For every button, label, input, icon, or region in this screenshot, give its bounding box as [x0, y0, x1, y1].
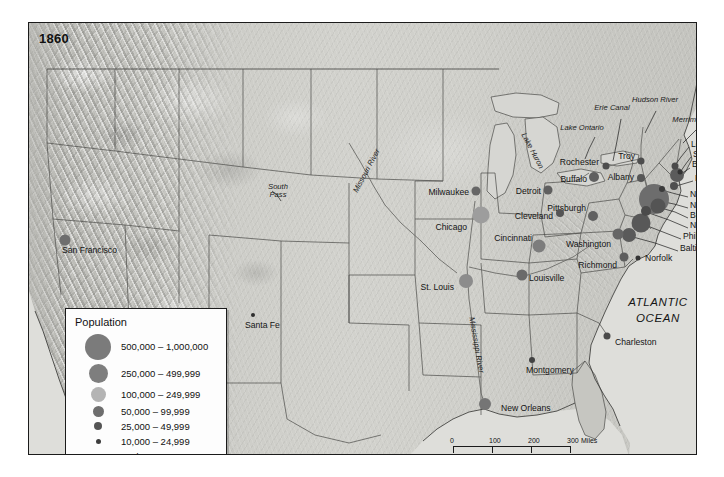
- city-label-boston: Boston: [692, 160, 697, 169]
- city-dot-san-francisco[interactable]: [60, 235, 71, 246]
- city-label-santa-fe: Santa Fe: [245, 321, 280, 330]
- city-label-richmond: Richmond: [578, 261, 617, 270]
- city-label-st-louis: St. Louis: [421, 283, 454, 292]
- legend-row: 500,000 – 1,000,000: [75, 332, 218, 361]
- city-label-louisville: Louisville: [529, 274, 564, 283]
- map-canvas[interactable]: 1860 San FranciscoSanta FeMilwaukeeChica…: [28, 22, 697, 455]
- scale-miles-numbers: 0100200300Miles: [453, 437, 605, 446]
- city-label-milwaukee: Milwaukee: [428, 188, 469, 197]
- city-label-chicago: Chicago: [435, 223, 467, 232]
- city-label-albany: Albany: [608, 173, 634, 182]
- city-dot-montgomery[interactable]: [529, 357, 535, 363]
- city-dot-detroit[interactable]: [544, 186, 553, 195]
- legend-row: Under 10,000: [75, 449, 218, 455]
- city-dot-new-orleans[interactable]: [479, 398, 491, 410]
- city-dot-rochester[interactable]: [603, 163, 610, 170]
- city-dot-brooklyn[interactable]: [651, 199, 666, 214]
- lake-superior: [491, 93, 559, 118]
- city-dot-albany[interactable]: [637, 174, 645, 182]
- legend-row: 100,000 – 249,999: [75, 385, 218, 403]
- city-label-pittsburgh: Pittsburgh: [547, 204, 586, 213]
- city-dot-charleston[interactable]: [604, 333, 611, 340]
- feature-label-lake-ontario: Lake Ontario: [560, 124, 603, 132]
- legend-class-label: 50,000 – 99,999: [121, 406, 190, 417]
- city-label-cleveland: Cleveland: [515, 212, 553, 221]
- legend-circle-swatch: [75, 362, 121, 384]
- city-label-san-francisco: San Francisco: [62, 246, 117, 255]
- city-dot-washington[interactable]: [613, 229, 624, 240]
- scale-bar: 0100200300Miles 0100200300Kilometers: [453, 437, 605, 455]
- feature-label-hudson-river: Hudson River: [632, 96, 678, 104]
- lake-michigan: [487, 123, 516, 199]
- legend-circle-swatch: [75, 434, 121, 448]
- feature-label-merrimack-river: Merrimack River: [672, 116, 697, 124]
- city-label-buffalo: Buffalo: [560, 175, 587, 184]
- city-dot-richmond[interactable]: [620, 253, 629, 262]
- feature-label-south-pass: SouthPass: [268, 183, 288, 200]
- scale-miles-tick: 0: [450, 437, 454, 444]
- city-label-new-york: New York: [690, 201, 697, 210]
- legend-circle-swatch: [75, 332, 121, 361]
- city-label-charleston: Charleston: [615, 338, 657, 347]
- city-dot-milwaukee[interactable]: [472, 187, 481, 196]
- legend-class-label: Under 10,000: [121, 451, 179, 456]
- city-label-newark: Newark: [690, 221, 697, 230]
- city-label-baltimore: Baltimore: [680, 244, 697, 253]
- city-dot-louisville[interactable]: [517, 270, 528, 281]
- city-label-troy: Troy: [618, 152, 635, 161]
- city-label-new-orleans: New Orleans: [501, 404, 551, 413]
- legend-class-label: 500,000 – 1,000,000: [121, 341, 208, 352]
- city-dot-norfolk[interactable]: [636, 256, 641, 261]
- city-label-providence: Providence: [695, 174, 697, 183]
- city-dot-pittsburgh[interactable]: [588, 211, 598, 221]
- mississippi-river-line: [467, 201, 485, 405]
- population-legend[interactable]: Population 500,000 – 1,000,000250,000 – …: [65, 308, 227, 455]
- legend-class-label: 100,000 – 249,999: [121, 389, 200, 400]
- scale-miles-tick: 100: [489, 437, 501, 444]
- city-dot-santa-fe[interactable]: [251, 313, 255, 317]
- city-dot-st-louis[interactable]: [459, 274, 473, 288]
- legend-title: Population: [75, 316, 218, 328]
- city-dot-cincinnati[interactable]: [533, 240, 546, 253]
- city-label-new-haven: New Haven: [690, 190, 697, 199]
- city-label-cincinnati: Cincinnati: [494, 234, 532, 243]
- scale-miles-tick: 200: [528, 437, 540, 444]
- city-label-philadelphia: Philadelphia: [683, 232, 697, 241]
- feature-label-erie-canal: Erie Canal: [594, 104, 629, 112]
- legend-row: 25,000 – 49,999: [75, 419, 218, 433]
- city-label-washington: Washington: [566, 240, 611, 249]
- city-dot-baltimore[interactable]: [622, 228, 636, 242]
- city-label-detroit: Detroit: [516, 187, 541, 196]
- city-dot-salem[interactable]: [678, 170, 683, 175]
- city-label-norfolk: Norfolk: [645, 254, 672, 263]
- legend-class-label: 250,000 – 499,999: [121, 368, 200, 379]
- city-dot-cleveland[interactable]: [556, 209, 564, 217]
- scale-miles-unit: Miles: [581, 437, 597, 444]
- legend-circle-swatch: [75, 404, 121, 418]
- legend-row: 50,000 – 99,999: [75, 404, 218, 418]
- scale-ticks: [453, 446, 605, 455]
- city-label-rochester: Rochester: [560, 158, 599, 167]
- legend-rows: 500,000 – 1,000,000250,000 – 499,999100,…: [75, 332, 218, 455]
- legend-class-label: 10,000 – 24,999: [121, 436, 190, 447]
- city-dot-troy[interactable]: [638, 158, 645, 165]
- legend-circle-swatch: [75, 449, 121, 455]
- city-label-lowell: Lowell: [691, 140, 697, 149]
- legend-circle-swatch: [75, 385, 121, 403]
- legend-row: 10,000 – 24,999: [75, 434, 218, 448]
- city-dot-lowell[interactable]: [672, 163, 679, 170]
- scale-miles-tick: 300: [567, 437, 579, 444]
- legend-class-label: 25,000 – 49,999: [121, 421, 190, 432]
- city-dot-chicago[interactable]: [473, 207, 490, 224]
- city-label-montgomery: Montgomery: [526, 366, 574, 375]
- city-dot-new-haven[interactable]: [659, 186, 665, 192]
- year-label: 1860: [39, 31, 69, 46]
- city-dot-buffalo[interactable]: [589, 172, 599, 182]
- legend-row: 250,000 – 499,999: [75, 362, 218, 384]
- city-dot-newark[interactable]: [641, 206, 651, 216]
- legend-circle-swatch: [75, 419, 121, 433]
- atlantic-ocean-label: ATLANTIC OCEAN: [612, 295, 697, 326]
- city-label-salem: Salem: [693, 150, 697, 159]
- map-screenshot: 1860 San FranciscoSanta FeMilwaukeeChica…: [0, 0, 724, 477]
- city-dot-providence[interactable]: [670, 182, 678, 190]
